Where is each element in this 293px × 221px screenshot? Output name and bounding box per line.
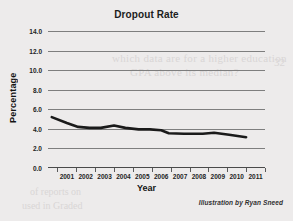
x-axis-tick xyxy=(57,168,58,172)
x-axis-tick xyxy=(95,168,96,172)
x-axis-title: Year xyxy=(0,183,293,193)
x-axis-tick xyxy=(133,168,134,172)
x-axis-tick xyxy=(171,168,172,172)
x-axis-tick xyxy=(227,168,228,172)
y-axis-tick-label: 4.0 xyxy=(14,125,42,132)
data-series-line xyxy=(48,31,265,168)
chart-page: 32 which data are for a higher education… xyxy=(0,0,293,221)
y-axis-tick-label: 2.0 xyxy=(14,145,42,152)
x-axis-tick xyxy=(265,168,266,172)
y-axis-tick-label: 12.0 xyxy=(14,47,42,54)
x-axis-tick xyxy=(152,168,153,172)
y-axis-tick-label: 14.0 xyxy=(14,28,42,35)
illustration-credit: Illustration by Ryan Sneed xyxy=(199,199,283,206)
x-axis-tick-label: 2011 xyxy=(243,173,269,180)
ghost-text-bleed-through: used in Graded xyxy=(22,200,83,211)
x-axis-tick xyxy=(208,168,209,172)
y-axis-tick-label: 0.0 xyxy=(14,165,42,172)
x-axis-tick xyxy=(76,168,77,172)
x-axis-tick xyxy=(246,168,247,172)
chart-title: Dropout Rate xyxy=(0,9,293,20)
y-axis-tick-label: 6.0 xyxy=(14,106,42,113)
x-axis-tick xyxy=(190,168,191,172)
ghost-text-bleed-through: 32 xyxy=(274,56,285,68)
y-axis-tick-label: 10.0 xyxy=(14,67,42,74)
y-axis-tick-label: 8.0 xyxy=(14,86,42,93)
x-axis-tick xyxy=(114,168,115,172)
